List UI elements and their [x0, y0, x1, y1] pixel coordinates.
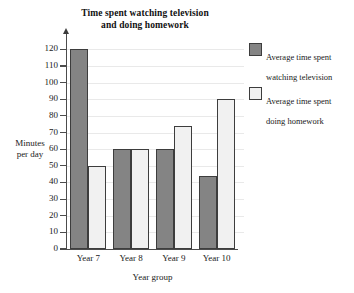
bar-hw-year-8	[131, 149, 149, 249]
legend-item-hw: Average time spent doing homework	[249, 86, 353, 126]
legend-item-tv: Average time spent watching television	[249, 42, 353, 82]
y-axis-tick-label: 20	[18, 211, 58, 220]
legend-label-tv: Average time spent watching television	[266, 42, 332, 82]
bar-hw-year-10	[217, 99, 235, 249]
legend-label-tv-line-2: watching television	[266, 72, 332, 82]
legend-swatch-tv-icon	[249, 43, 262, 56]
bar-tv-year-7	[70, 49, 88, 249]
y-axis-tick-label: 30	[18, 194, 58, 203]
chart-title-line-2: and doing homework	[52, 20, 238, 32]
legend-label-hw-line-1: Average time spent	[266, 96, 331, 106]
chart-title: Time spent watching television and doing…	[52, 8, 238, 31]
y-axis-tick-label: 10	[18, 227, 58, 236]
x-axis-title: Year group	[67, 272, 238, 282]
chart-title-line-1: Time spent watching television	[52, 8, 238, 20]
y-axis-tick-label: 90	[18, 94, 58, 103]
legend-label-hw-line-2: doing homework	[266, 116, 324, 126]
y-axis-arrow-icon	[63, 28, 69, 34]
y-axis-tick-label: 60	[18, 144, 58, 153]
bar-tv-year-8	[113, 149, 131, 249]
legend-swatch-hw-icon	[249, 87, 262, 100]
y-axis-tick-label: 80	[18, 111, 58, 120]
y-axis-tick-label: 110	[18, 61, 58, 70]
x-axis-label-year-10: Year 10	[190, 253, 244, 263]
bar-tv-year-9	[156, 149, 174, 249]
plot-area	[67, 41, 238, 249]
bar-tv-year-10	[199, 176, 217, 249]
legend: Average time spent watching television A…	[249, 42, 353, 130]
legend-label-hw: Average time spent doing homework	[266, 86, 331, 126]
bar-hw-year-9	[174, 126, 192, 249]
bar-chart-figure: Time spent watching television and doing…	[0, 0, 354, 293]
y-axis-tick-label: 70	[18, 128, 58, 137]
legend-label-tv-line-1: Average time spent	[266, 52, 331, 62]
y-axis-tick-label: 40	[18, 177, 58, 186]
y-axis-tick-label: 50	[18, 161, 58, 170]
y-axis-tick-label: 100	[18, 78, 58, 87]
y-axis-tick-label: 120	[18, 44, 58, 53]
y-axis-tick-label: 0	[18, 244, 58, 253]
bar-hw-year-7	[88, 166, 106, 249]
